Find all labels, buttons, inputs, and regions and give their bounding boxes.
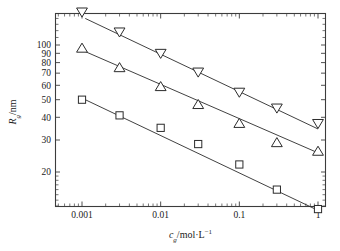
data-point: [236, 161, 243, 168]
data-point: [314, 205, 321, 212]
y-axis-title: Rg/nm: [7, 99, 22, 125]
y-tick-label: 20: [42, 167, 52, 177]
data-point: [193, 99, 204, 108]
data-point: [116, 112, 123, 119]
series-triangle-down: [77, 8, 324, 129]
y-axis-ticks: [56, 18, 326, 206]
y-tick-label: 80: [42, 58, 52, 68]
plot-axes: 0.0010.010.112030405060708090100Rg/nmcg/…: [7, 14, 326, 244]
data-point: [271, 138, 282, 147]
y-axis-title-unit: /nm: [7, 99, 18, 115]
y-tick-label: 70: [42, 68, 52, 78]
data-point: [157, 124, 164, 131]
y-tick-label: 40: [42, 113, 52, 123]
y-tick-label: 60: [42, 81, 52, 91]
x-axis-title: cg/mol·L−1: [169, 228, 213, 244]
svg-text:Rg/nm: Rg/nm: [7, 99, 22, 125]
x-axis-title-unit: /mol·L: [177, 229, 205, 240]
chart-figure: 0.0010.010.112030405060708090100Rg/nmcg/…: [0, 0, 340, 251]
data-point: [273, 186, 280, 193]
x-tick-label: 0.1: [233, 210, 245, 220]
data-point: [77, 43, 88, 52]
data-point: [193, 68, 204, 77]
x-tick-label: 0.01: [152, 210, 169, 220]
y-tick-label: 100: [37, 40, 52, 50]
y-tick-labels: 2030405060708090100: [37, 40, 52, 177]
data-point: [155, 49, 166, 58]
x-axis-title-exponent: −1: [205, 228, 213, 236]
data-point: [78, 96, 85, 103]
y-tick-label: 30: [42, 135, 52, 145]
data-point: [195, 140, 202, 147]
data-point: [234, 118, 245, 127]
plot-frame: [56, 14, 326, 207]
series-triangle-up: [77, 43, 324, 155]
y-tick-label: 50: [42, 95, 52, 105]
x-tick-label: 0.001: [71, 210, 93, 220]
data-point: [234, 88, 245, 97]
scatter-plot-svg: 0.0010.010.112030405060708090100Rg/nmcg/…: [0, 0, 340, 251]
data-point: [114, 63, 125, 72]
data-series-group: [77, 8, 324, 213]
y-axis-title-symbol: R: [7, 118, 18, 125]
x-tick-labels: 0.0010.010.11: [71, 210, 320, 220]
